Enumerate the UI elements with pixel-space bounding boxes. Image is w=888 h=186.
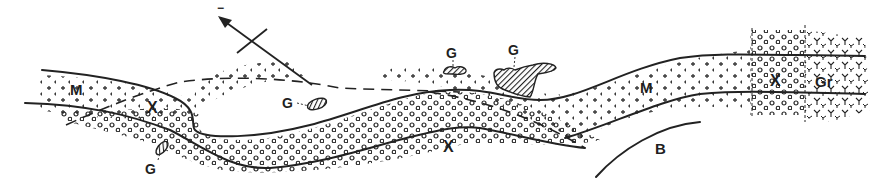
geologic-cross-section: − M X X M X Gr B G G G G [0, 0, 888, 186]
gold-label-4: G [508, 42, 519, 58]
mica-schist-east-label: M [640, 79, 653, 96]
gold-label-3: G [446, 45, 457, 61]
conglomerate-east-label: X [770, 72, 781, 89]
gold-body-3 [443, 67, 466, 75]
conglomerate-west-label: X [147, 99, 158, 116]
mica-schist-west-label: M [70, 81, 83, 98]
cross-section-canvas: − M X X M X Gr B G G G G [0, 0, 888, 186]
gold-body-1 [306, 96, 328, 112]
basement-label: B [655, 140, 666, 157]
gold-label-2: G [145, 161, 156, 177]
basement-contact [596, 122, 700, 177]
granite-label: Gr [815, 73, 833, 90]
arrow-sign-label: − [217, 1, 224, 15]
conglomerate-center-label: X [443, 138, 454, 155]
gold-label-1: G [282, 95, 293, 111]
